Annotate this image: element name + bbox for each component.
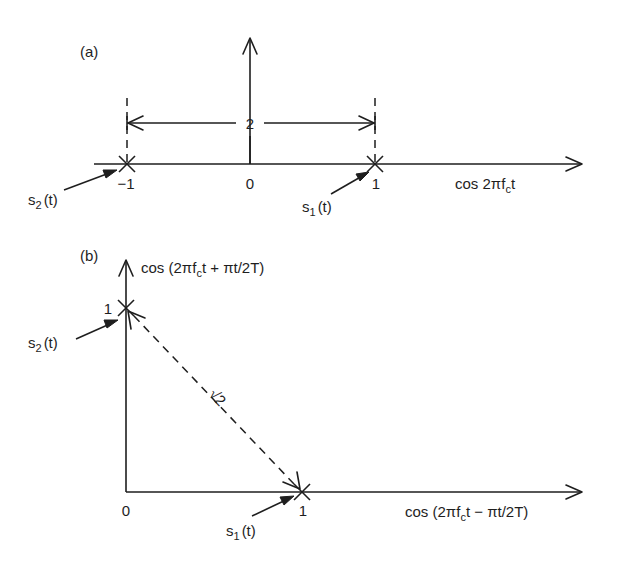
- panel-b-s1-pointer-arrowhead-icon: [280, 496, 294, 505]
- panel-b-distance-label: √2: [206, 385, 230, 409]
- panel-a-tick-neg1: −1: [117, 175, 134, 192]
- panel-a-distance-label: 2: [246, 115, 254, 132]
- panel-a-s1-label: s1(t): [302, 198, 332, 218]
- signal-constellation-diagram: (a) 2 −1 0 1 cos 2π: [0, 0, 618, 566]
- panel-a-s2-label: s2(t): [28, 191, 58, 211]
- panel-a: (a) 2 −1 0 1 cos 2π: [28, 38, 582, 218]
- panel-b-tick-origin: 0: [122, 502, 130, 519]
- panel-a-label: (a): [80, 43, 98, 60]
- panel-b-y-axis-label: cos (2πfct + πt/2T): [141, 259, 264, 279]
- panel-b-s1-label: s1(t): [226, 522, 256, 542]
- panel-a-tick-1: 1: [372, 175, 380, 192]
- panel-b-x-axis-label: cos (2πfct − πt/2T): [405, 503, 528, 523]
- panel-b-s2-pointer-arrowhead-icon: [104, 320, 118, 328]
- panel-b-label: (b): [80, 247, 98, 264]
- panel-b-tick-x1: 1: [299, 502, 307, 519]
- panel-a-tick-0: 0: [246, 175, 254, 192]
- panel-b-s2-label: s2(t): [28, 334, 58, 354]
- panel-a-s1-pointer-arrowhead-icon: [356, 172, 369, 181]
- panel-a-s2-pointer-arrowhead-icon: [103, 170, 117, 178]
- panel-b: (b) cos (2πfct + πt/2T) √2 1 0 1 cos (2π…: [28, 247, 582, 542]
- panel-b-distance-arrowhead-top-icon: [128, 311, 145, 329]
- panel-a-x-axis-label: cos 2πfct: [455, 175, 516, 195]
- panel-b-tick-y1: 1: [104, 300, 112, 317]
